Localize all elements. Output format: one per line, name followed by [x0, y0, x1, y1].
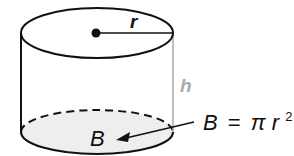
cylinder-diagram: r h B B = π r 2	[0, 0, 294, 156]
height-label: h	[180, 75, 192, 96]
formula-pi: π	[251, 110, 267, 135]
area-formula: B = π r 2	[203, 109, 292, 135]
base-label: B	[90, 126, 105, 151]
formula-var: r	[272, 110, 281, 135]
formula-exponent: 2	[285, 109, 292, 124]
center-dot	[92, 29, 101, 38]
formula-equals: =	[228, 110, 241, 135]
formula-lhs: B	[203, 110, 218, 135]
